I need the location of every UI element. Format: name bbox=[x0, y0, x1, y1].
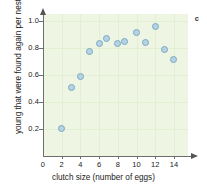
y-tick-label: 0.6 bbox=[28, 70, 39, 79]
y-tick-label: 1.0 bbox=[28, 16, 39, 25]
y-tick-label: 0.2 bbox=[28, 124, 39, 133]
data-point bbox=[68, 84, 75, 91]
data-point bbox=[86, 48, 93, 55]
panel-label: c bbox=[195, 14, 199, 23]
data-point bbox=[161, 46, 168, 53]
y-axis-arrow-icon bbox=[40, 8, 46, 15]
x-tick-mark bbox=[62, 156, 63, 159]
data-point bbox=[58, 125, 65, 132]
gridline-vertical bbox=[118, 14, 119, 156]
y-tick-mark bbox=[39, 129, 43, 130]
x-tick-mark bbox=[137, 156, 138, 159]
gridline-vertical bbox=[174, 14, 175, 156]
y-tick-label: 0.4 bbox=[28, 97, 39, 106]
gridline-vertical bbox=[62, 14, 63, 156]
data-point bbox=[96, 40, 103, 47]
y-axis-title: young that were found again per nest bbox=[14, 0, 23, 142]
x-tick-label: 12 bbox=[148, 160, 162, 169]
x-tick-label: 8 bbox=[111, 160, 125, 169]
x-axis-title: clutch size (number of eggs) bbox=[0, 173, 207, 182]
gridline-vertical bbox=[155, 14, 156, 156]
y-axis-line bbox=[43, 14, 44, 156]
y-tick-label: 0.8 bbox=[28, 43, 39, 52]
x-tick-mark bbox=[155, 156, 156, 159]
data-point bbox=[170, 56, 177, 63]
gridline-horizontal bbox=[43, 75, 188, 76]
x-axis-arrow-icon bbox=[191, 153, 198, 159]
data-point bbox=[103, 35, 110, 42]
x-tick-label: 2 bbox=[55, 160, 69, 169]
x-tick-mark bbox=[118, 156, 119, 159]
gridline-vertical bbox=[99, 14, 100, 156]
plot-area bbox=[43, 14, 188, 156]
data-point bbox=[152, 23, 159, 30]
y-tick-mark bbox=[39, 75, 43, 76]
gridline-horizontal bbox=[43, 102, 188, 103]
gridline-vertical bbox=[80, 14, 81, 156]
data-point bbox=[142, 39, 149, 46]
scatter-plot-figure: 0.20.40.60.81.0 02468101214 young that w… bbox=[0, 0, 207, 195]
y-tick-mark bbox=[39, 48, 43, 49]
x-tick-label: 0 bbox=[36, 160, 50, 169]
x-tick-mark bbox=[174, 156, 175, 159]
x-tick-label: 4 bbox=[73, 160, 87, 169]
data-point bbox=[133, 29, 140, 36]
x-tick-mark bbox=[80, 156, 81, 159]
y-tick-mark bbox=[39, 21, 43, 22]
y-tick-mark bbox=[39, 102, 43, 103]
data-point bbox=[77, 73, 84, 80]
x-tick-mark bbox=[99, 156, 100, 159]
x-tick-label: 6 bbox=[92, 160, 106, 169]
data-point bbox=[121, 38, 128, 45]
x-tick-label: 14 bbox=[167, 160, 181, 169]
gridline-horizontal bbox=[43, 21, 188, 22]
x-tick-label: 10 bbox=[130, 160, 144, 169]
